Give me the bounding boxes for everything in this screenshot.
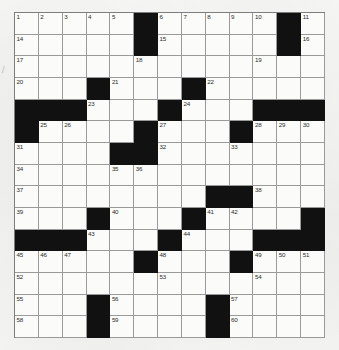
crossword-cell[interactable] xyxy=(182,121,206,143)
crossword-cell[interactable] xyxy=(39,165,63,187)
crossword-cell[interactable]: 11 xyxy=(301,13,325,35)
crossword-cell[interactable]: 40 xyxy=(110,208,134,230)
crossword-cell[interactable] xyxy=(63,35,87,57)
crossword-cell[interactable]: 41 xyxy=(206,208,230,230)
crossword-cell[interactable] xyxy=(277,316,301,338)
crossword-cell[interactable]: 52 xyxy=(15,273,39,295)
crossword-cell[interactable]: 4 xyxy=(87,13,111,35)
crossword-cell[interactable]: 16 xyxy=(301,35,325,57)
crossword-cell[interactable]: 46 xyxy=(39,251,63,273)
crossword-cell[interactable]: 1 xyxy=(15,13,39,35)
crossword-cell[interactable]: 42 xyxy=(230,208,254,230)
crossword-cell[interactable] xyxy=(110,121,134,143)
crossword-cell[interactable]: 28 xyxy=(253,121,277,143)
crossword-cell[interactable]: 39 xyxy=(15,208,39,230)
crossword-cell[interactable] xyxy=(110,273,134,295)
crossword-cell[interactable]: 60 xyxy=(230,316,254,338)
crossword-cell[interactable] xyxy=(206,35,230,57)
crossword-cell[interactable] xyxy=(63,186,87,208)
crossword-cell[interactable]: 21 xyxy=(110,78,134,100)
crossword-cell[interactable] xyxy=(134,295,158,317)
crossword-cell[interactable]: 24 xyxy=(182,100,206,122)
crossword-cell[interactable] xyxy=(134,186,158,208)
crossword-cell[interactable] xyxy=(110,186,134,208)
crossword-cell[interactable] xyxy=(253,165,277,187)
crossword-cell[interactable] xyxy=(182,273,206,295)
crossword-cell[interactable] xyxy=(158,78,182,100)
crossword-cell[interactable]: 5 xyxy=(110,13,134,35)
crossword-cell[interactable] xyxy=(87,273,111,295)
crossword-cell[interactable] xyxy=(253,35,277,57)
crossword-cell[interactable]: 23 xyxy=(87,100,111,122)
crossword-cell[interactable]: 37 xyxy=(15,186,39,208)
crossword-cell[interactable] xyxy=(182,35,206,57)
crossword-cell[interactable] xyxy=(182,186,206,208)
crossword-cell[interactable] xyxy=(230,165,254,187)
crossword-cell[interactable] xyxy=(158,316,182,338)
crossword-cell[interactable]: 33 xyxy=(230,143,254,165)
crossword-cell[interactable] xyxy=(134,208,158,230)
crossword-cell[interactable]: 36 xyxy=(134,165,158,187)
crossword-cell[interactable] xyxy=(134,316,158,338)
crossword-cell[interactable] xyxy=(158,56,182,78)
crossword-cell[interactable] xyxy=(158,295,182,317)
crossword-cell[interactable]: 20 xyxy=(15,78,39,100)
crossword-cell[interactable] xyxy=(277,295,301,317)
crossword-cell[interactable] xyxy=(182,316,206,338)
crossword-cell[interactable] xyxy=(206,251,230,273)
crossword-cell[interactable] xyxy=(253,316,277,338)
crossword-cell[interactable]: 47 xyxy=(63,251,87,273)
crossword-cell[interactable] xyxy=(39,273,63,295)
crossword-cell[interactable]: 44 xyxy=(182,230,206,252)
crossword-cell[interactable]: 6 xyxy=(158,13,182,35)
crossword-cell[interactable] xyxy=(206,165,230,187)
crossword-cell[interactable] xyxy=(39,208,63,230)
crossword-cell[interactable] xyxy=(301,56,325,78)
crossword-cell[interactable]: 57 xyxy=(230,295,254,317)
crossword-cell[interactable] xyxy=(110,56,134,78)
crossword-cell[interactable] xyxy=(230,78,254,100)
crossword-cell[interactable]: 15 xyxy=(158,35,182,57)
crossword-cell[interactable] xyxy=(134,230,158,252)
crossword-cell[interactable] xyxy=(253,208,277,230)
crossword-cell[interactable] xyxy=(253,295,277,317)
crossword-cell[interactable]: 54 xyxy=(253,273,277,295)
crossword-cell[interactable] xyxy=(63,165,87,187)
crossword-cell[interactable] xyxy=(253,78,277,100)
crossword-cell[interactable]: 27 xyxy=(158,121,182,143)
crossword-cell[interactable] xyxy=(301,295,325,317)
crossword-cell[interactable]: 19 xyxy=(253,56,277,78)
crossword-cell[interactable] xyxy=(206,273,230,295)
crossword-cell[interactable] xyxy=(134,100,158,122)
crossword-cell[interactable] xyxy=(277,186,301,208)
crossword-cell[interactable] xyxy=(230,35,254,57)
crossword-cell[interactable] xyxy=(39,35,63,57)
crossword-cell[interactable] xyxy=(182,143,206,165)
crossword-cell[interactable]: 31 xyxy=(15,143,39,165)
crossword-cell[interactable] xyxy=(158,165,182,187)
crossword-cell[interactable] xyxy=(277,56,301,78)
crossword-cell[interactable]: 17 xyxy=(15,56,39,78)
crossword-cell[interactable]: 45 xyxy=(15,251,39,273)
crossword-cell[interactable] xyxy=(110,35,134,57)
crossword-cell[interactable] xyxy=(230,230,254,252)
crossword-cell[interactable] xyxy=(110,230,134,252)
crossword-cell[interactable] xyxy=(39,56,63,78)
crossword-cell[interactable] xyxy=(301,273,325,295)
crossword-cell[interactable]: 55 xyxy=(15,295,39,317)
crossword-cell[interactable]: 25 xyxy=(39,121,63,143)
crossword-cell[interactable] xyxy=(277,273,301,295)
crossword-cell[interactable] xyxy=(110,100,134,122)
crossword-cell[interactable]: 43 xyxy=(87,230,111,252)
crossword-cell[interactable] xyxy=(110,251,134,273)
crossword-cell[interactable] xyxy=(63,316,87,338)
crossword-cell[interactable] xyxy=(87,121,111,143)
crossword-cell[interactable] xyxy=(301,78,325,100)
crossword-cell[interactable] xyxy=(63,78,87,100)
crossword-cell[interactable] xyxy=(87,251,111,273)
crossword-cell[interactable]: 18 xyxy=(134,56,158,78)
crossword-cell[interactable] xyxy=(134,273,158,295)
crossword-cell[interactable] xyxy=(230,273,254,295)
crossword-cell[interactable]: 56 xyxy=(110,295,134,317)
crossword-cell[interactable] xyxy=(206,143,230,165)
